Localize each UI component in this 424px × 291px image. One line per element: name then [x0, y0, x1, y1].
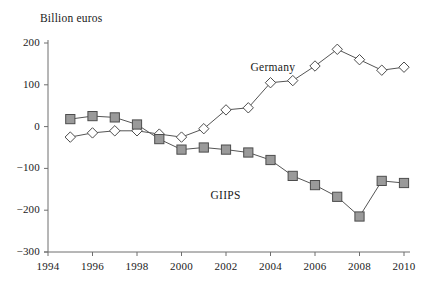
marker-square	[377, 176, 386, 185]
data-point	[310, 61, 320, 71]
marker-square	[221, 145, 230, 154]
data-point	[355, 212, 364, 221]
marker-square	[177, 145, 186, 154]
series-label-germany: Germany	[250, 61, 295, 73]
data-point	[354, 55, 364, 65]
x-axis-tick-label: 1994	[28, 260, 68, 272]
marker-diamond	[87, 128, 97, 138]
data-point	[377, 176, 386, 185]
data-point	[399, 62, 409, 72]
marker-square	[110, 113, 119, 122]
data-point	[132, 120, 141, 129]
marker-square	[399, 178, 408, 187]
y-axis-tick-label: 200	[6, 36, 40, 48]
data-point	[88, 112, 97, 121]
marker-diamond	[65, 132, 76, 142]
data-point	[176, 132, 186, 142]
x-axis-tick-label: 2006	[295, 260, 335, 272]
marker-square	[288, 171, 297, 180]
marker-square	[244, 148, 253, 157]
chart-container: Billion euros 2001000−100−200−3001994199…	[0, 0, 424, 291]
data-point	[288, 75, 298, 85]
x-axis-tick-label: 2008	[340, 260, 380, 272]
marker-square	[88, 112, 97, 121]
marker-square	[155, 135, 164, 144]
data-point	[266, 155, 275, 164]
x-axis-tick-label: 1996	[73, 260, 113, 272]
series-label-giips: GIIPS	[210, 189, 240, 201]
data-point	[244, 148, 253, 157]
y-axis-tick-label: 100	[6, 78, 40, 90]
marker-diamond	[377, 65, 387, 75]
series-line-germany	[70, 49, 404, 137]
marker-square	[355, 212, 364, 221]
x-axis-tick-label: 2010	[384, 260, 424, 272]
marker-diamond	[332, 44, 342, 54]
marker-square	[333, 192, 342, 201]
marker-square	[266, 155, 275, 164]
marker-diamond	[176, 132, 186, 142]
y-axis-tick-label: −200	[6, 203, 40, 215]
data-point	[110, 126, 121, 136]
data-point	[377, 65, 387, 75]
marker-square	[132, 120, 141, 129]
marker-square	[66, 115, 75, 124]
y-axis-tick-label: 0	[6, 120, 40, 132]
data-point	[288, 171, 297, 180]
x-axis-tick-label: 2000	[162, 260, 202, 272]
marker-diamond	[110, 126, 121, 136]
data-point	[310, 181, 319, 190]
marker-diamond	[399, 62, 409, 72]
data-point	[66, 115, 75, 124]
marker-square	[199, 143, 208, 152]
data-point	[155, 135, 164, 144]
data-point	[110, 113, 119, 122]
x-axis-tick-label: 2004	[251, 260, 291, 272]
data-point	[399, 178, 408, 187]
plot-area	[0, 0, 424, 291]
y-axis-tick-label: −100	[6, 161, 40, 173]
marker-diamond	[288, 75, 298, 85]
data-point	[199, 143, 208, 152]
data-point	[333, 192, 342, 201]
marker-square	[310, 181, 319, 190]
x-axis-tick-label: 1998	[117, 260, 157, 272]
data-point	[177, 145, 186, 154]
marker-diamond	[310, 61, 320, 71]
y-axis-tick-label: −300	[6, 245, 40, 257]
x-axis-tick-label: 2002	[206, 260, 246, 272]
data-point	[65, 132, 76, 142]
data-point	[87, 128, 97, 138]
data-point	[332, 44, 342, 54]
data-point	[221, 145, 230, 154]
marker-diamond	[354, 55, 364, 65]
